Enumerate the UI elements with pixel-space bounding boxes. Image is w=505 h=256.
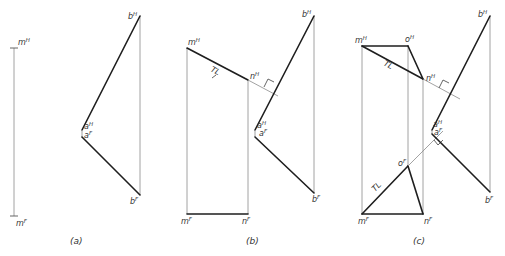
label-bF: bF <box>485 195 494 205</box>
line-ab-front-view <box>432 134 490 192</box>
label-mH: mH <box>188 37 200 47</box>
label-nF: nF <box>242 216 251 226</box>
label-aF: aF <box>434 127 443 137</box>
line-ab-top-view <box>432 16 490 130</box>
label-mH: mH <box>18 37 30 47</box>
label-aF: aF <box>84 130 93 140</box>
label-mF: mF <box>16 218 28 228</box>
right-angle-marker-top <box>439 80 449 88</box>
line-on-front-view <box>408 166 423 214</box>
line-mo-front-view <box>362 166 408 214</box>
label-mF: mF <box>181 216 193 226</box>
panel-a: mH mF aH aF bH bF (a) <box>10 11 140 246</box>
label-mF: mF <box>358 216 370 226</box>
label-nH: nH <box>426 73 435 83</box>
right-angle-marker <box>264 79 274 87</box>
panel-c: mH oH nH mF oF nF aH aF bH bF TL TL (c) <box>355 9 494 246</box>
label-nH: nH <box>250 71 259 81</box>
orthographic-projection-figure: mH mF aH aF bH bF (a) mH nH mF nF aH aF … <box>0 0 505 256</box>
line-ab-top-view <box>82 16 140 130</box>
true-length-label-front: TL <box>370 180 383 193</box>
label-mH: mH <box>355 35 367 45</box>
line-ab-front-view <box>82 137 140 195</box>
label-bH: bH <box>128 11 137 21</box>
label-bH: bH <box>302 9 311 19</box>
line-ab-front-view <box>255 137 314 193</box>
panel-b: mH nH mF nF aH aF bH bF TL (b) <box>181 9 321 246</box>
true-length-label-top: TL <box>382 59 394 71</box>
label-oF: oF <box>398 158 407 168</box>
tl-leader-mark <box>212 75 216 78</box>
label-bF: bF <box>312 194 321 204</box>
caption-a: (a) <box>70 236 83 246</box>
label-bH: bH <box>478 9 487 19</box>
label-aF: aF <box>259 128 268 138</box>
label-bF: bF <box>130 196 139 206</box>
caption-c: (c) <box>413 236 425 246</box>
label-oH: oH <box>405 34 414 44</box>
line-ab-top-view <box>255 16 314 130</box>
label-nF: nF <box>424 216 433 226</box>
caption-b: (b) <box>246 236 259 246</box>
